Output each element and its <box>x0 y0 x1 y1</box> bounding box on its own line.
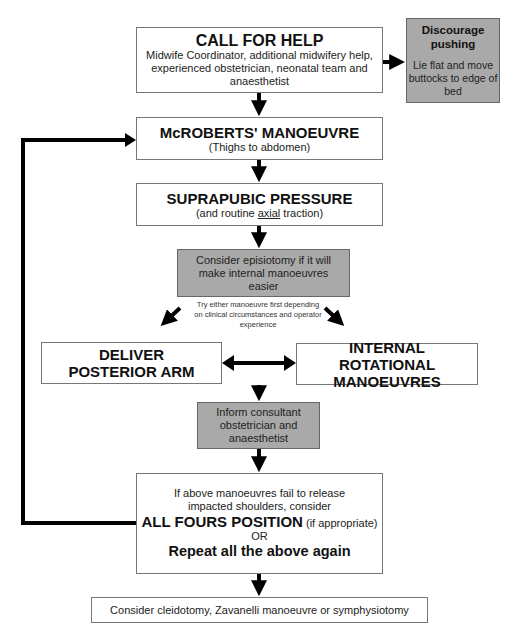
posterior-arm-box: DELIVER POSTERIOR ARM <box>41 342 222 384</box>
final-text: Consider cleidotomy, Zavanelli manoeuvre… <box>110 604 409 617</box>
call-for-help-detail: Midwife Coordinator, additional midwifer… <box>137 49 382 88</box>
episiotomy-box: Consider episiotomy if it will make inte… <box>177 249 350 297</box>
suprapubic-detail-prefix: (and routine <box>196 207 258 219</box>
all-fours-title: ALL FOURS POSITION <box>142 513 303 530</box>
internal-rotational-title: INTERNAL ROTATIONAL MANOEUVRES <box>297 339 477 390</box>
all-fours-note: (if appropriate) <box>303 517 378 529</box>
choice-note: Try either manoeuvre first depending on … <box>193 300 323 330</box>
or-text: OR <box>251 530 268 543</box>
mcroberts-title: McROBERTS' MANOEUVRE <box>160 124 359 141</box>
internal-rotational-box: INTERNAL ROTATIONAL MANOEUVRES <box>296 343 478 385</box>
posterior-arm-title: DELIVER POSTERIOR ARM <box>42 346 221 380</box>
inform-text: Inform consultant obstetrician and anaes… <box>198 406 319 445</box>
suprapubic-detail: (and routine axial traction) <box>196 207 323 220</box>
suprapubic-detail-suffix: traction) <box>280 207 323 219</box>
suprapubic-detail-axial: axial <box>258 207 281 219</box>
repeat-line1: If above manoeuvres fail to release impa… <box>137 487 382 513</box>
inform-box: Inform consultant obstetrician and anaes… <box>197 402 320 449</box>
all-fours-line: ALL FOURS POSITION (if appropriate) <box>142 513 378 530</box>
mcroberts-detail: (Thighs to abdomen) <box>209 141 311 154</box>
call-for-help-box: CALL FOR HELP Midwife Coordinator, addit… <box>136 27 383 93</box>
discourage-pushing-detail: Lie flat and move buttocks to edge of be… <box>407 59 499 98</box>
episiotomy-text: Consider episiotomy if it will make inte… <box>178 254 349 293</box>
final-box: Consider cleidotomy, Zavanelli manoeuvre… <box>91 597 428 623</box>
discourage-pushing-box: Discourage pushing Lie flat and move but… <box>406 18 500 103</box>
suprapubic-title: SUPRAPUBIC PRESSURE <box>167 190 353 207</box>
mcroberts-box: McROBERTS' MANOEUVRE (Thighs to abdomen) <box>136 117 383 160</box>
discourage-pushing-title: Discourage pushing <box>407 23 499 51</box>
call-for-help-title: CALL FOR HELP <box>196 32 324 49</box>
suprapubic-box: SUPRAPUBIC PRESSURE (and routine axial t… <box>136 183 383 226</box>
repeat-all-text: Repeat all the above again <box>168 543 350 560</box>
repeat-box: If above manoeuvres fail to release impa… <box>136 473 383 574</box>
